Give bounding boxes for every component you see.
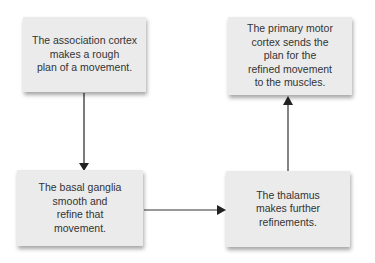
node-text-line: The thalamus bbox=[256, 189, 320, 203]
node-text-line: makes further bbox=[256, 202, 320, 216]
arrow-basal-to-thal bbox=[144, 205, 226, 215]
node-text-line: plan for the bbox=[247, 49, 333, 63]
node-text-line: The primary motor bbox=[247, 22, 333, 36]
node-text-line: smooth and bbox=[39, 195, 122, 209]
node-text-line: refined movement bbox=[247, 63, 333, 77]
node-text-line: to the muscles. bbox=[247, 76, 333, 90]
node-text-line: cortex sends the bbox=[247, 36, 333, 50]
node-text-line: The association cortex bbox=[32, 34, 137, 48]
node-thalamus: The thalamus makes further refinements. bbox=[226, 171, 350, 247]
node-text-line: refinements. bbox=[256, 216, 320, 230]
node-text-line: movement. bbox=[39, 222, 122, 236]
node-text-line: The basal ganglia bbox=[39, 181, 122, 195]
node-association-cortex: The association cortex makes a rough pla… bbox=[23, 17, 146, 92]
node-text-line: plan of a movement. bbox=[32, 61, 137, 75]
node-basal-ganglia: The basal ganglia smooth and refine that… bbox=[17, 170, 143, 246]
arrow-thal-to-motor bbox=[283, 96, 293, 171]
node-text-line: refine that bbox=[39, 208, 122, 222]
arrow-assoc-to-basal bbox=[79, 93, 89, 171]
node-primary-motor-cortex: The primary motor cortex sends the plan … bbox=[228, 17, 352, 95]
node-text-line: makes a rough bbox=[32, 48, 137, 62]
